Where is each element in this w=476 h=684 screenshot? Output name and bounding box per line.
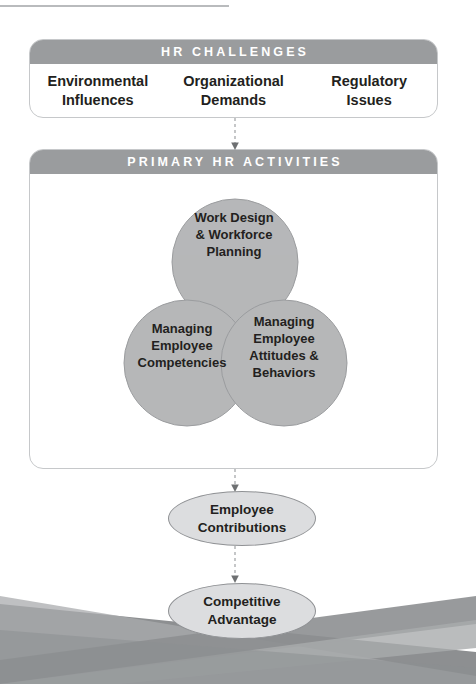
outcome-label: Competitive Advantage — [203, 593, 280, 628]
connector-challenges-to-activities — [228, 118, 242, 151]
outcome-line-2: Contributions — [198, 519, 286, 537]
primary-hr-activities-header: PRIMARY HR ACTIVITIES — [30, 150, 437, 174]
outcome-line-2: Advantage — [203, 611, 280, 629]
diagram-canvas: HR CHALLENGES Environmental Influences O… — [0, 0, 476, 684]
challenge-environmental-influences: Environmental Influences — [30, 72, 166, 109]
outcome-line-1: Competitive — [203, 593, 280, 611]
challenge-line-2: Demands — [166, 91, 302, 110]
challenge-organizational-demands: Organizational Demands — [166, 72, 302, 109]
challenge-line-2: Issues — [301, 91, 437, 110]
top-divider-rule — [0, 5, 229, 7]
outcome-competitive-advantage: Competitive Advantage — [168, 583, 316, 639]
primary-hr-activities-panel: PRIMARY HR ACTIVITIES Work Design & Work… — [29, 149, 438, 469]
challenge-line-1: Environmental — [30, 72, 166, 91]
outcome-line-1: Employee — [198, 501, 286, 519]
challenge-line-1: Organizational — [166, 72, 302, 91]
outcome-label: Employee Contributions — [198, 501, 286, 536]
challenge-line-2: Influences — [30, 91, 166, 110]
challenge-line-1: Regulatory — [301, 72, 437, 91]
hr-challenges-columns: Environmental Influences Organizational … — [30, 64, 437, 118]
outcome-employee-contributions: Employee Contributions — [168, 491, 316, 546]
venn-diagram: Work Design & Workforce Planning Managin… — [30, 174, 438, 468]
challenge-regulatory-issues: Regulatory Issues — [301, 72, 437, 109]
venn-circle-attitudes — [221, 300, 347, 426]
connector-activities-to-contributions — [228, 469, 242, 493]
connector-contributions-to-advantage — [228, 546, 242, 584]
hr-challenges-header: HR CHALLENGES — [30, 40, 437, 64]
hr-challenges-panel: HR CHALLENGES Environmental Influences O… — [29, 39, 438, 118]
